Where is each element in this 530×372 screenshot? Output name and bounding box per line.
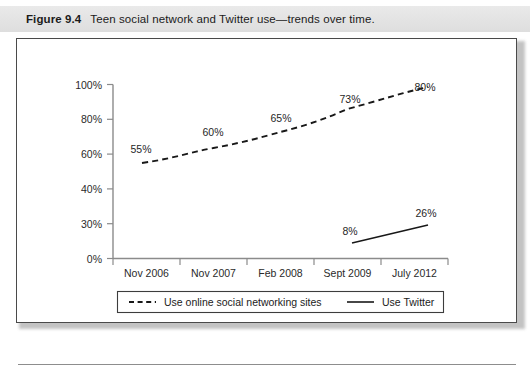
data-labels-twitter: 8% 26%	[342, 207, 436, 237]
x-tick-label: Feb 2008	[258, 267, 303, 279]
x-axis-ticks	[113, 259, 448, 266]
x-tick-label: Nov 2007	[191, 267, 236, 279]
series-line-social-networking	[142, 87, 428, 163]
x-tick-label: July 2012	[392, 267, 437, 279]
figure-caption-text: Teen social network and Twitter use—tren…	[90, 13, 374, 25]
page-footer-rule	[18, 364, 516, 365]
legend-label-social-networking: Use online social networking sites	[164, 296, 322, 308]
data-label: 80%	[414, 81, 435, 93]
figure-number: Figure 9.4	[26, 13, 81, 25]
y-axis-labels: 100% 80% 60% 40% 30% 0%	[75, 79, 102, 265]
x-axis-labels: Nov 2006 Nov 2007 Feb 2008 Sept 2009 Jul…	[124, 267, 437, 279]
data-label: 8%	[342, 225, 357, 237]
y-axis-ticks	[107, 85, 113, 259]
data-label: 65%	[270, 112, 291, 124]
x-tick-label: Sept 2009	[324, 267, 372, 279]
y-tick-label: 0%	[87, 253, 102, 265]
series-line-twitter	[352, 225, 428, 243]
y-tick-label: 100%	[75, 79, 102, 91]
figure-caption-band: Figure 9.4Teen social network and Twitte…	[0, 6, 530, 32]
y-tick-label: 40%	[81, 183, 102, 195]
data-labels-social-networking: 55% 60% 65% 73% 80%	[130, 81, 435, 155]
data-label: 55%	[130, 143, 151, 155]
y-tick-label: 80%	[81, 113, 102, 125]
legend-label-twitter: Use Twitter	[382, 296, 435, 308]
y-tick-label: 30%	[81, 218, 102, 230]
data-label: 26%	[415, 207, 436, 219]
chart-legend: Use online social networking sites Use T…	[118, 292, 444, 313]
data-label: 60%	[202, 126, 223, 138]
line-chart: 100% 80% 60% 40% 30% 0% Nov 2006 Nov 200…	[16, 38, 517, 323]
data-label: 73%	[339, 93, 360, 105]
x-tick-label: Nov 2006	[124, 267, 169, 279]
figure-caption: Figure 9.4Teen social network and Twitte…	[0, 13, 375, 25]
y-tick-label: 60%	[81, 148, 102, 160]
